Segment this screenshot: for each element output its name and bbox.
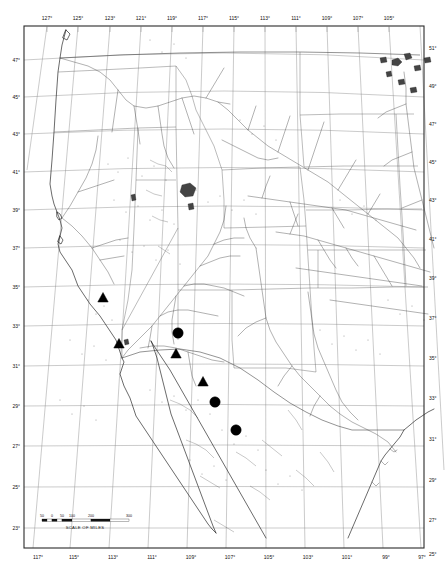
axis-label-left: 41° — [12, 169, 20, 175]
axis-label-top: 123° — [105, 15, 115, 21]
axis-label-right: 45° — [429, 159, 437, 165]
scale-tick-label: 0 — [51, 514, 53, 518]
axis-label-top: 117° — [198, 15, 208, 21]
marker-circle — [173, 328, 183, 338]
axis-label-right: 51° — [429, 45, 437, 51]
axis-label-bottom: 115° — [69, 554, 79, 560]
scale-tick-label: 200 — [88, 514, 94, 518]
axis-label-bottom: 97° — [418, 554, 426, 560]
scale-bar-caption: SCALE OF MILES — [66, 525, 105, 530]
axis-label-bottom: 107° — [225, 554, 235, 560]
map-background — [0, 0, 448, 565]
axis-label-bottom: 111° — [147, 554, 157, 560]
axis-label-top: 113° — [260, 15, 270, 21]
axis-label-right: 47° — [429, 121, 437, 127]
axis-label-right: 35° — [429, 355, 437, 361]
axis-label-right: 39° — [429, 275, 437, 281]
axis-label-right: 37° — [429, 315, 437, 321]
axis-label-bottom: 109° — [186, 554, 196, 560]
axis-label-top: 121° — [136, 15, 146, 21]
axis-label-top: 127° — [42, 15, 52, 21]
axis-label-left: 43° — [12, 131, 20, 137]
axis-label-left: 33° — [12, 323, 20, 329]
axis-label-bottom: 117° — [33, 554, 43, 560]
marker-circle — [231, 425, 241, 435]
axis-label-left: 25° — [12, 484, 20, 490]
axis-label-right: 41° — [429, 236, 437, 242]
axis-label-right: 29° — [429, 477, 437, 483]
map-figure: 127° 125° 123° 121° 119° 117° 115° 113° … — [0, 0, 448, 565]
axis-label-bottom: 99° — [382, 554, 390, 560]
axis-label-right: 27° — [429, 517, 437, 523]
marker-circle — [210, 397, 220, 407]
axis-label-right: 43° — [429, 197, 437, 203]
scale-tick-label: 100 — [69, 514, 75, 518]
axis-label-left: 27° — [12, 443, 20, 449]
axis-label-right: 31° — [429, 436, 437, 442]
axis-label-top: 105° — [384, 15, 394, 21]
axis-label-left: 29° — [12, 403, 20, 409]
axis-label-left: 31° — [12, 363, 20, 369]
axis-label-left: 37° — [12, 245, 20, 251]
scale-tick-label: 300 — [126, 514, 132, 518]
axis-label-bottom: 105° — [264, 554, 274, 560]
scale-tick-label: 50 — [40, 514, 44, 518]
axis-label-right: 33° — [429, 395, 437, 401]
axis-label-left: 45° — [12, 94, 20, 100]
axis-label-left: 23° — [12, 525, 20, 531]
axis-label-left: 35° — [12, 284, 20, 290]
axis-label-top: 111° — [291, 15, 301, 21]
axis-label-top: 107° — [353, 15, 363, 21]
axis-label-bottom: 113° — [108, 554, 118, 560]
axis-label-right: 49° — [429, 83, 437, 89]
axis-label-top: 109° — [322, 15, 332, 21]
axis-label-top: 125° — [73, 15, 83, 21]
axis-label-right: 25° — [429, 551, 437, 557]
axis-label-left: 39° — [12, 207, 20, 213]
axis-label-top: 115° — [229, 15, 239, 21]
scale-tick-label: 50 — [60, 514, 64, 518]
axis-label-top: 119° — [167, 15, 177, 21]
axis-label-left: 47° — [12, 57, 20, 63]
axis-label-bottom: 101° — [342, 554, 352, 560]
axis-label-bottom: 103° — [303, 554, 313, 560]
map-canvas: 127° 125° 123° 121° 119° 117° 115° 113° … — [0, 0, 448, 565]
